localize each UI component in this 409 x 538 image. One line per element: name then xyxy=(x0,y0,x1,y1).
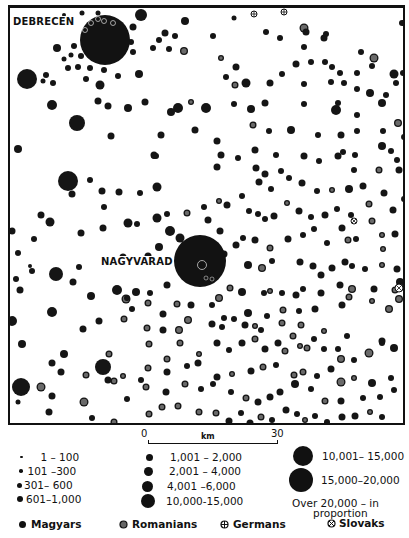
magyar-settlement-dot xyxy=(112,285,122,295)
magyar-settlement-dot xyxy=(205,217,212,224)
romanian-settlement-dot xyxy=(258,264,266,272)
magyar-settlement-dot xyxy=(310,263,317,270)
magyar-settlement-dot xyxy=(378,142,386,150)
magyar-settlement-dot xyxy=(339,414,346,421)
romanian-settlement-dot xyxy=(232,82,239,89)
magyar-settlement-dot xyxy=(201,204,207,210)
magyar-settlement-dot xyxy=(233,64,240,71)
magyar-settlement-dot xyxy=(58,171,78,191)
magyar-settlement-dot xyxy=(78,53,84,59)
magyar-settlement-dot xyxy=(269,417,275,423)
magyar-settlement-dot xyxy=(392,231,399,238)
magyar-settlement-dot xyxy=(267,80,274,87)
magyar-settlement-dot xyxy=(80,326,87,333)
romanian-settlement-dot xyxy=(143,384,150,391)
magyar-settlement-dot xyxy=(239,193,245,199)
magyar-settlement-dot xyxy=(247,420,254,426)
magyar-settlement-dot xyxy=(348,212,354,218)
magyar-settlement-dot xyxy=(101,204,107,210)
romanian-settlement-dot xyxy=(329,187,335,193)
magyar-settlement-dot xyxy=(388,148,394,154)
magyar-settlement-dot xyxy=(165,226,175,236)
magyar-settlement-dot xyxy=(358,49,364,55)
romanian-settlement-dot xyxy=(369,218,376,225)
magyar-settlement-dot xyxy=(47,100,57,110)
romanian-settlement-dot xyxy=(322,398,329,405)
magyar-settlement-dot xyxy=(156,37,162,43)
magyar-settlement-dot xyxy=(76,264,82,270)
magyar-settlement-dot xyxy=(352,152,358,158)
magyar-settlement-dot xyxy=(312,413,318,419)
legend-dot-icon xyxy=(17,496,23,502)
romanian-settlement-dot xyxy=(284,200,290,206)
magyar-settlement-dot xyxy=(46,218,55,227)
magyar-settlement-dot xyxy=(353,236,359,242)
magyar-settlement-dot xyxy=(328,366,335,373)
magyar-settlement-dot xyxy=(277,389,284,396)
magyar-settlement-dot xyxy=(390,207,397,214)
magyar-settlement-dot xyxy=(100,225,107,232)
magyar-settlement-dot xyxy=(153,183,162,192)
romanian-settlement-dot xyxy=(175,326,183,334)
legend-dot-icon xyxy=(142,481,153,492)
romanian-settlement-dot xyxy=(83,372,90,379)
romanian-settlement-dot xyxy=(379,232,385,238)
legend-germans: Germans xyxy=(220,518,286,530)
magyar-settlement-dot xyxy=(135,9,147,21)
romanian-settlement-dot xyxy=(182,381,189,388)
magyar-settlement-dot xyxy=(49,393,56,400)
magyar-settlement-dot xyxy=(277,35,283,41)
magyar-settlement-dot xyxy=(339,302,346,309)
magyar-settlement-dot xyxy=(29,268,35,274)
magyar-settlement-dot xyxy=(242,322,249,329)
magyar-settlement-dot xyxy=(293,292,300,299)
magyar-settlement-dot xyxy=(155,243,163,251)
magyar-settlement-dot xyxy=(70,279,77,286)
romanian-settlement-dot xyxy=(379,262,385,268)
magyar-settlement-dot xyxy=(124,104,132,112)
magyar-settlement-dot xyxy=(401,196,405,202)
magyar-settlement-dot xyxy=(101,67,107,73)
romanian-settlement-dot xyxy=(302,417,308,423)
romanian-settlement-dot xyxy=(164,356,171,363)
romanian-settlement-dot xyxy=(280,307,287,314)
magyar-settlement-dot xyxy=(233,242,240,249)
magyar-settlement-dot xyxy=(96,81,105,90)
magyar-settlement-dot xyxy=(324,240,330,246)
magyar-settlement-dot xyxy=(99,188,106,195)
magyar-settlement-dot xyxy=(43,72,49,78)
scale-bar: 0 km 30 xyxy=(140,428,290,448)
romanian-settlement-dot xyxy=(291,372,298,379)
magyar-settlement-dot xyxy=(268,186,274,192)
romanian-settlement-dot xyxy=(37,383,46,392)
romanian-settlement-dot xyxy=(348,285,356,293)
magyar-settlement-dot xyxy=(308,59,314,65)
romanian-settlement-dot xyxy=(290,333,297,340)
magyar-settlement-dot xyxy=(266,128,272,134)
magyar-settlement-dot xyxy=(328,79,334,85)
magyar-settlement-dot xyxy=(316,158,322,164)
romanian-settlement-dot xyxy=(111,378,118,385)
magyar-settlement-dot xyxy=(124,295,130,301)
romanian-settlement-dot xyxy=(177,340,184,347)
magyar-settlement-dot xyxy=(49,360,56,367)
magyar-settlement-dot xyxy=(31,236,37,242)
scale-end: 30 xyxy=(271,428,284,439)
magyar-settlement-dot xyxy=(80,11,85,16)
romanian-settlement-dot xyxy=(267,288,273,294)
magyar-settlement-dot xyxy=(130,49,136,55)
romanian-settlement-dot xyxy=(146,341,153,348)
magyar-settlement-dot xyxy=(65,65,71,71)
legend-dot-icon xyxy=(146,454,153,461)
romanian-settlement-dot xyxy=(367,409,373,415)
romanian-settlement-dot xyxy=(106,351,113,358)
magyar-settlement-dot xyxy=(400,70,405,76)
magyar-settlement-dot xyxy=(46,409,53,416)
magyar-settlement-dot xyxy=(244,261,252,269)
magyar-settlement-dot xyxy=(262,346,269,353)
magyar-settlement-dot xyxy=(184,363,190,369)
magyar-settlement-dot xyxy=(371,286,378,293)
magyar-settlement-dot xyxy=(335,346,341,352)
magyar-settlement-dot xyxy=(134,221,140,227)
magyar-settlement-dot xyxy=(147,290,153,296)
